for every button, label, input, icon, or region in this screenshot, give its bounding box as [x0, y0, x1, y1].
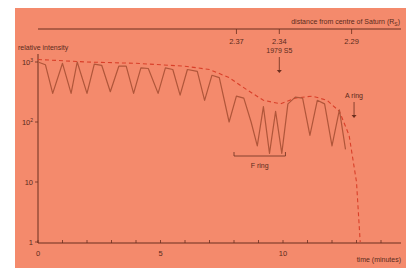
top-tick-label: 2.37	[229, 37, 244, 46]
x-tick-label: 5	[158, 249, 162, 258]
x-tick-label: 0	[36, 249, 40, 258]
f-ring-bracket	[234, 152, 285, 156]
arrow-head-icon	[352, 115, 357, 118]
annotation-label: F ring	[251, 162, 269, 170]
y-axis-ticks: 110102103	[22, 57, 38, 247]
y-tick-label: 10	[25, 178, 33, 187]
annotation-label: A ring	[345, 92, 363, 100]
top-tick-label: 2.34	[272, 37, 287, 46]
y-axis-label: relative intensity	[18, 44, 69, 52]
annotations: 1979 S5A ringF ring	[234, 47, 363, 170]
annotation-label: 1979 S5	[266, 47, 292, 54]
x-tick-label: 10	[279, 249, 287, 258]
y-tick-label: 1	[29, 238, 33, 247]
top-axis-ticks: 2.372.342.29	[229, 29, 359, 46]
top-axis-label: distance from centre of Saturn (RS)	[291, 18, 400, 27]
y-tick-label: 102	[22, 117, 33, 127]
arrow-head-icon	[277, 70, 282, 73]
top-tick-label: 2.29	[344, 37, 359, 46]
envelope-dashed-line	[38, 60, 360, 243]
y-tick-label: 103	[22, 57, 33, 67]
x-axis-label: time (minutes)	[357, 256, 401, 264]
intensity-line	[38, 62, 346, 153]
chart-svg: distance from centre of Saturn (RS) 2.37…	[0, 0, 417, 280]
